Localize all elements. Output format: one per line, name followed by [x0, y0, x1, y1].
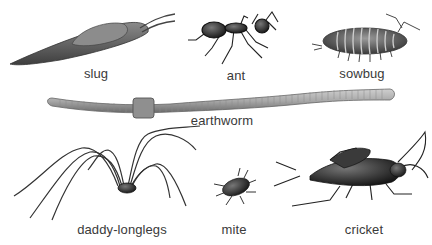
daddy-longlegs-figure [14, 126, 200, 220]
ant-figure [188, 12, 278, 64]
slug-figure [10, 14, 175, 65]
label-mite: mite [222, 222, 247, 237]
label-cricket: cricket [345, 222, 383, 237]
sowbug-figure [312, 14, 420, 62]
mite-figure [214, 168, 256, 205]
label-earthworm: earthworm [191, 113, 253, 128]
label-daddy-longlegs: daddy-longlegs [77, 222, 167, 237]
cricket-figure [274, 132, 428, 206]
label-slug: slug [84, 66, 108, 81]
label-sowbug: sowbug [339, 66, 384, 81]
illustration-canvas: slug ant sowbug earthworm daddy-longlegs… [0, 0, 432, 245]
label-ant: ant [227, 68, 245, 83]
